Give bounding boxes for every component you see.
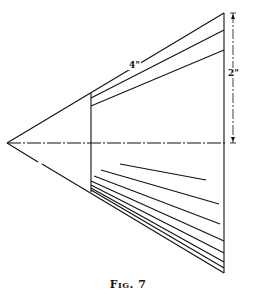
lower-fan-line <box>91 181 224 241</box>
lower-slant-line-b <box>42 164 224 273</box>
lower-fan-line <box>91 190 224 268</box>
lower-fan-line <box>120 164 206 180</box>
cone-development-diagram <box>0 0 256 303</box>
upper-fan-line <box>91 50 224 106</box>
upper-slant-line <box>7 13 224 143</box>
upper-fan-line <box>91 30 224 98</box>
lower-fan-line <box>91 185 224 253</box>
lower-fan-line <box>91 188 224 262</box>
slant-length-label: 4" <box>128 60 141 70</box>
arrow-head-bottom <box>231 137 235 142</box>
figure-caption: Fig. 7 <box>0 278 256 291</box>
lower-slant-line-a <box>7 143 38 162</box>
height-label: 2" <box>228 68 239 78</box>
arrow-head-top <box>231 14 235 19</box>
